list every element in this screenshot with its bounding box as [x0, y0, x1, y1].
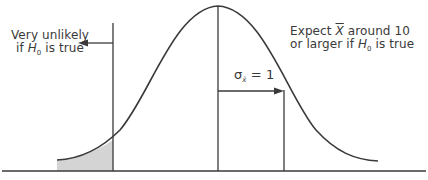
right-arrow-icon [274, 88, 284, 95]
expectation-annotation: Expect X around 10 or larger if H0 is tr… [290, 25, 426, 56]
left-annotation-line2: if H0 is true [3, 42, 97, 60]
right-annotation-line2: or larger if H0 is true [290, 38, 426, 56]
left-tail-annotation: Very unlikely if H0 is true [3, 29, 97, 60]
rejection-region-shade [57, 140, 113, 171]
standard-error-label: σx̄ = 1 [234, 68, 274, 87]
